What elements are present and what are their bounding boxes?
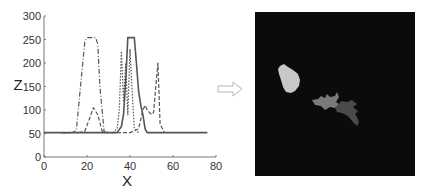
series-dash-dot [61,38,108,134]
line-chart: 020406080050100150200250300 X Z [0,0,225,192]
x-tick-label: 80 [210,160,222,172]
x-tick-label: 60 [167,160,179,172]
y-tick-label: 50 [29,128,41,140]
x-tick-label: 40 [124,160,136,172]
segmentation-image-panel [255,12,415,176]
x-axis-label: X [122,172,132,189]
mid-gray-blob [312,92,339,110]
light-blob [278,64,300,93]
x-tick-label: 20 [81,160,93,172]
x-tick-label: 0 [41,160,47,172]
y-tick-label: 150 [23,81,41,93]
y-tick-label: 0 [35,151,41,163]
y-tick-label: 100 [23,104,41,116]
series-solid [44,38,207,133]
y-tick-label: 250 [23,34,41,46]
y-axis-label: Z [13,76,22,93]
chart-series [44,38,207,134]
right-arrow-icon [216,80,244,98]
chart-axes: 020406080050100150200250300 [23,10,222,172]
y-tick-label: 300 [23,10,41,22]
y-tick-label: 200 [23,57,41,69]
